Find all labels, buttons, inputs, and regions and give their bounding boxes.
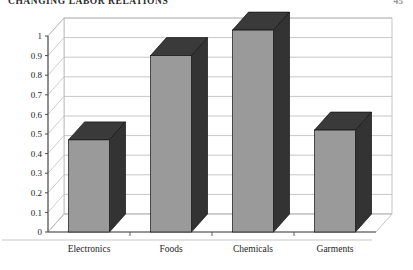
y-tick-label: 0.2 [31, 188, 42, 198]
y-tick-label: 0.1 [31, 208, 42, 218]
y-tick-label: 0.9 [31, 51, 43, 61]
bar [69, 122, 126, 232]
y-tick-label: 0.4 [31, 149, 43, 159]
bar-side-face [110, 122, 126, 232]
y-tick-label: 0.3 [31, 168, 43, 178]
bar-front-face [151, 56, 192, 232]
bar-chart: 00.10.20.30.40.50.60.70.80.91 Electronic… [0, 0, 413, 270]
x-tick-label: Chemicals [233, 244, 273, 254]
y-tick-label: 0.5 [31, 129, 43, 139]
x-axis [2, 232, 376, 240]
x-tick-label: Electronics [68, 244, 111, 254]
y-tick-label: 1 [38, 31, 43, 41]
y-tick-label: 0.7 [31, 90, 43, 100]
bar-front-face [233, 30, 274, 232]
bar [233, 12, 290, 232]
bar-side-face [192, 38, 208, 232]
x-tick-label: Garments [317, 244, 354, 254]
bar-front-face [315, 130, 356, 232]
chart-svg: 00.10.20.30.40.50.60.70.80.91 Electronic… [0, 0, 413, 270]
y-axis [45, 36, 48, 232]
x-tick-labels: ElectronicsFoodsChemicalsGarments [68, 244, 354, 254]
y-tick-labels: 00.10.20.30.40.50.60.70.80.91 [31, 31, 43, 237]
bar [315, 112, 372, 232]
bar-side-face [274, 12, 290, 232]
bar [151, 38, 208, 232]
y-tick-label: 0.6 [31, 110, 43, 120]
bar-side-face [356, 112, 372, 232]
y-tick-label: 0.8 [31, 70, 43, 80]
figure-page: CHANGING LABOR RELATIONS 45 00.10.20.30.… [0, 0, 413, 270]
x-tick-label: Foods [159, 244, 183, 254]
y-tick-label: 0 [38, 227, 43, 237]
bar-front-face [69, 140, 110, 232]
